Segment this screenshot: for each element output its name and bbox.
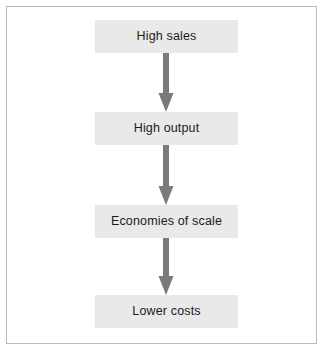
flow-node-label: Lower costs	[132, 305, 200, 318]
flow-node: Lower costs	[95, 295, 238, 328]
flow-node-label: High output	[134, 122, 200, 135]
arrow-down-icon	[152, 145, 180, 205]
arrow-down-icon	[152, 238, 180, 295]
flow-node: High sales	[95, 20, 238, 53]
flow-node: High output	[95, 112, 238, 145]
flow-node-label: High sales	[137, 30, 197, 43]
flow-node-label: Economies of scale	[111, 215, 222, 228]
flow-node: Economies of scale	[95, 205, 238, 238]
flow-stack: High sales High output Economies of scal…	[0, 0, 325, 352]
arrow-down-icon	[152, 53, 180, 112]
flowchart-figure: High sales High output Economies of scal…	[0, 0, 325, 352]
